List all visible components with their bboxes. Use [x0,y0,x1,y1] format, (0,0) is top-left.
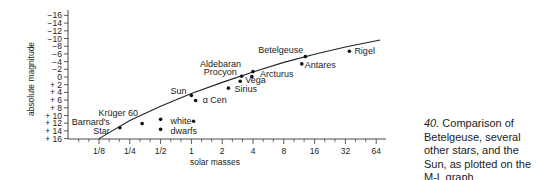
star-point [140,122,144,126]
star-point [238,79,242,83]
star-point [300,62,304,66]
x-tick-label: 1/2 [155,146,167,156]
star-point [159,128,163,132]
star-labels: Barnard'sStarKrüger 60whitedwarfsSunα Ce… [72,45,375,137]
star-point [194,99,198,103]
star-label: Sun [170,86,186,96]
star-point [348,49,352,53]
y-tick-label: + 16 [45,134,62,144]
star-point [118,126,122,130]
x-tick-label: 64 [371,146,381,156]
star-label: Betelgeuse [258,45,303,55]
star-point [227,86,231,90]
x-tick-label: 8 [281,146,286,156]
figure-caption: 40. Comparison of Betelgeuse, several ot… [424,117,542,180]
star-label: Rigel [354,46,375,56]
x-axis: 1/81/41/21248163264 [68,139,386,156]
star-label: Aldebaran [200,59,241,69]
y-axis-title: absolute magnitude [26,42,36,116]
x-tick-label: 4 [251,146,256,156]
x-tick-label: 1/8 [93,146,105,156]
figure-caption-text: Comparison of Betelgeuse, several other … [424,117,531,180]
star-label: Sirius [234,84,257,94]
star-label: Procyon [204,67,237,77]
x-tick-label: 16 [310,146,320,156]
star-point [251,70,255,74]
star-label: Arcturus [260,69,294,79]
x-tick-label: 1 [189,146,194,156]
star-point [159,118,163,122]
x-tick-label: 32 [341,146,351,156]
star-label: Krüger 60 [99,108,139,118]
star-point [192,119,196,123]
y-axis: −16−14−12−10−8−6−4−20+ 2+ 4+ 6+ 8+ 10+ 1… [45,10,68,144]
x-tick-label: 1/4 [124,146,136,156]
star-label: α Cen [203,95,227,105]
x-tick-label: 2 [220,146,225,156]
star-point [190,94,194,98]
x-axis-title: solar masses [190,157,240,167]
star-label: Antares [305,60,337,70]
figure-number: 40. [424,117,439,129]
star-point [304,55,308,59]
star-label: Barnard'sStar [72,117,111,137]
star-point [240,74,244,78]
star-label: whitedwarfs [170,116,198,136]
